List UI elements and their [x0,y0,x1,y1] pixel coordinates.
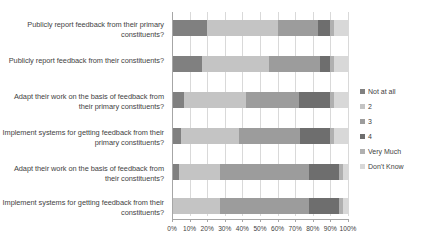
category-label: Implement systems for getting feedback f… [0,198,164,217]
x-tick-label: 30% [218,224,231,233]
gridline [260,12,261,216]
tickmark [295,219,296,222]
x-tick-label: 70% [289,224,302,233]
legend-item[interactable]: 2 [360,99,418,114]
gridline [313,12,314,216]
tickmark [242,219,243,222]
gridline [242,12,243,216]
category-label: Publicly report feedback from their prim… [0,20,164,39]
category-axis-labels: Publicly report feedback from their prim… [0,12,168,216]
bar-segment [220,164,310,180]
gridline [330,12,331,216]
bar-segment [334,92,348,108]
x-tick-label: 20% [201,224,214,233]
bar-segment [172,20,207,36]
plot-area [172,12,348,216]
x-axis-tick-labels: 0%10%20%30%40%50%60%70%80%90%100% [172,224,349,236]
tickmark [313,219,314,222]
tickmark [278,219,279,222]
x-tick-label: 90% [324,224,337,233]
bar-segment [246,92,299,108]
stacked-bar-chart: Publicly report feedback from their prim… [0,0,421,252]
bar-segment [172,164,179,180]
bar-segment [334,56,348,72]
legend-swatch-icon [360,89,365,94]
legend-swatch-icon [360,134,365,139]
bar-row [172,56,348,72]
bar-segment [300,128,330,144]
legend-label: 4 [368,132,372,141]
bar-segment [181,128,239,144]
bar-segment [172,56,202,72]
x-tick-label: 80% [306,224,319,233]
bar-segment [334,20,348,36]
bar-row [172,164,348,180]
legend-swatch-icon [360,104,365,109]
bar-segment [269,56,320,72]
category-label: Publicly report feedback from their cons… [0,56,164,66]
legend-swatch-icon [360,119,365,124]
x-tick-label: 60% [271,224,284,233]
bar-segment [309,164,339,180]
gridline [225,12,226,216]
bar-segment [309,198,339,214]
bar-segment [239,128,301,144]
gridline [348,12,349,216]
legend-label: Don't Know [368,162,404,171]
bar-segment [343,164,348,180]
x-tick-label: 50% [253,224,266,233]
bar-segment [184,92,246,108]
tickmark [348,219,349,222]
tickmark [260,219,261,222]
legend-item[interactable]: 3 [360,114,418,129]
gridline [278,12,279,216]
legend-item[interactable]: 4 [360,129,418,144]
legend-item[interactable]: Don't Know [360,159,418,174]
bar-segment [172,128,181,144]
tickmark [330,219,331,222]
gridline [207,12,208,216]
tickmark [190,219,191,222]
bar-row [172,198,348,214]
bar-row [172,92,348,108]
bar-segment [172,198,220,214]
tickmark [225,219,226,222]
bar-segment [202,56,269,72]
x-tick-label: 100% [340,224,357,233]
category-label: Implement systems for getting feedback f… [0,128,164,147]
category-label: Adapt their work on the basis of feedbac… [0,164,164,183]
x-tick-label: 0% [167,224,177,233]
bar-segment [172,92,184,108]
bar-segment [299,92,331,108]
tickmark [207,219,208,222]
bar-segment [343,198,348,214]
y-axis-line [172,12,173,220]
legend-label: 3 [368,117,372,126]
bar-row [172,20,348,36]
bar-segment [220,198,310,214]
bar-segment [278,20,318,36]
gridline [295,12,296,216]
bar-row [172,128,348,144]
bar-segment [207,20,277,36]
bar-segment [334,128,348,144]
category-label: Adapt their work on the basis of feedbac… [0,92,164,111]
legend-item[interactable]: Not at all [360,84,418,99]
x-tick-label: 40% [236,224,249,233]
legend-label: 2 [368,102,372,111]
tickmark [172,219,173,222]
legend-swatch-icon [360,164,365,169]
bar-segment [179,164,219,180]
legend-label: Very Much [368,147,401,156]
legend-item[interactable]: Very Much [360,144,418,159]
chart-legend: Not at all234Very MuchDon't Know [360,84,418,174]
gridline [190,12,191,216]
x-tick-label: 10% [183,224,196,233]
legend-label: Not at all [368,87,396,96]
legend-swatch-icon [360,149,365,154]
bar-segment [320,56,331,72]
bar-segment [318,20,330,36]
